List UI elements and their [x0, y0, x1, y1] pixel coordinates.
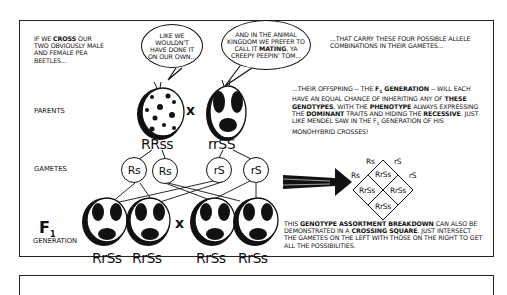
f1-beetle-icon [126, 198, 170, 246]
parent-genotype: RRss [141, 136, 173, 152]
arrow-icon [283, 168, 352, 196]
f1-genotype: RrSs [196, 250, 226, 266]
square-cell: RrSs [375, 202, 391, 211]
f1-genotype: RrSs [238, 250, 268, 266]
square-label-left: Rs [366, 157, 375, 166]
cross-symbol: x [186, 102, 195, 118]
square-cell: RrSs [375, 170, 391, 179]
gamete: rS [243, 157, 269, 183]
f1-beetle-icon [233, 198, 278, 246]
square-label-right: rS [409, 171, 416, 180]
gamete: rS [206, 157, 232, 183]
parent-beetle-spotted-icon [137, 82, 184, 140]
cross-symbol: x [175, 215, 184, 231]
f1-genotype: RrSs [92, 250, 122, 266]
f1-beetle-icon [82, 198, 127, 246]
f1-beetle-icon [190, 198, 235, 246]
square-cell: RrSs [390, 186, 406, 195]
parent-beetle-blotched-icon [206, 80, 246, 141]
square-cell: RrSs [359, 186, 375, 195]
f1-genotype: RrSs [132, 250, 162, 266]
parent-genotype: rrSS [208, 136, 235, 152]
square-label-right: rS [394, 157, 401, 166]
square-label-left: Rs [351, 171, 360, 180]
gamete: Rs [152, 158, 178, 184]
gamete: Rs [121, 157, 147, 183]
